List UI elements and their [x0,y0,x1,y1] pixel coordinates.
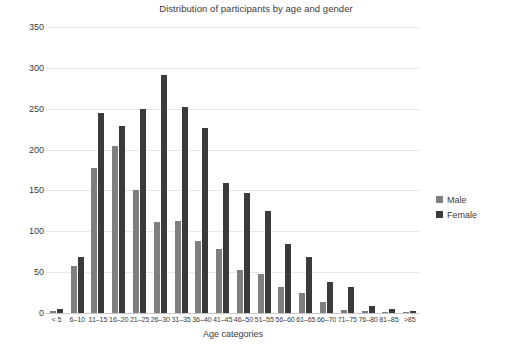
bar-female [348,287,354,313]
y-axis-tick-label: 350 [6,22,44,32]
bar-group [129,27,150,313]
bar-male [299,293,305,313]
gridline [46,313,420,314]
bar-male [91,168,97,313]
x-axis-tick-label: 16–20 [108,315,129,324]
y-axis-tick-label: 200 [6,145,44,155]
bar-female [182,107,188,313]
bar-female [285,244,291,313]
x-axis-tick-label: 6–10 [67,315,88,324]
bar-female [223,183,229,313]
chart-title: Distribution of participants by age and … [0,3,512,14]
bar-group [88,27,109,313]
x-axis-tick-label: 46–50 [233,315,254,324]
bar-group [233,27,254,313]
bar-female [389,309,395,313]
bar-male [278,287,284,313]
bar-group [254,27,275,313]
bar-group [171,27,192,313]
y-axis-tick-label: 300 [6,63,44,73]
bar-group [358,27,379,313]
x-axis-tick-label: 61–65 [295,315,316,324]
y-axis-tick-label: 100 [6,226,44,236]
bar-female [57,309,63,313]
x-axis-tick-label: 21–25 [129,315,150,324]
x-axis-tick-label: 56–60 [275,315,296,324]
bar-female [327,282,333,313]
x-axis-tick-label: 51–55 [254,315,275,324]
bar-female [161,75,167,313]
bar-female [410,311,416,313]
bar-group [379,27,400,313]
bar-male [362,311,368,313]
x-axis-tick-label: 26–30 [150,315,171,324]
legend-item-male: Male [436,192,477,207]
legend-item-female: Female [436,207,477,222]
bar-female [119,126,125,313]
bar-group [316,27,337,313]
x-axis-label: Age categories [46,329,420,339]
bar-male [175,221,181,313]
x-axis-tick-label: >85 [399,315,420,324]
bar-male [382,312,388,313]
x-axis-tick-label: 71–75 [337,315,358,324]
bar-male [112,146,118,313]
bar-group [212,27,233,313]
legend-swatch-female-icon [436,211,443,218]
x-axis-tick-label: 81–85 [379,315,400,324]
bar-male [403,312,409,313]
y-axis-tick-label: 250 [6,104,44,114]
bar-male [154,222,160,313]
bar-female [78,257,84,313]
bar-group [295,27,316,313]
bar-group [67,27,88,313]
x-axis-tick-label: 11–15 [88,315,109,324]
y-axis-tick-label: 0 [6,308,44,318]
x-axis-tick-label: 66–70 [316,315,337,324]
bar-female [140,109,146,313]
bar-female [369,306,375,313]
bar-male [71,266,77,313]
y-axis-tick-label: 50 [6,267,44,277]
bar-group [46,27,67,313]
bar-group [108,27,129,313]
bar-female [244,193,250,313]
legend-label-female: Female [447,210,477,220]
bar-group [191,27,212,313]
x-axis-tick-label: < 5 [46,315,67,324]
bar-group [150,27,171,313]
x-axis-tick-label: 36–40 [191,315,212,324]
legend-swatch-male-icon [436,196,443,203]
bar-male [258,274,264,313]
bar-female [202,128,208,313]
bar-group [275,27,296,313]
x-axis-tick-label: 41–45 [212,315,233,324]
bar-male [133,190,139,313]
bar-chart: Distribution of participants by age and … [0,0,512,346]
bar-male [237,270,243,313]
bar-male [50,311,56,313]
bar-group [337,27,358,313]
bar-group [399,27,420,313]
bar-female [306,257,312,313]
bars-layer [46,27,420,313]
y-axis-tick-label: 150 [6,185,44,195]
bar-female [265,211,271,313]
legend-label-male: Male [447,195,467,205]
x-axis-tick-label: 31–35 [171,315,192,324]
x-axis-ticks: < 56–1011–1516–2021–2526–3031–3536–4041–… [46,315,420,324]
bar-male [341,310,347,313]
bar-male [216,249,222,313]
x-axis-tick-label: 76–80 [358,315,379,324]
bar-male [320,302,326,313]
bar-female [98,113,104,313]
bar-male [195,241,201,313]
legend: Male Female [436,192,477,222]
